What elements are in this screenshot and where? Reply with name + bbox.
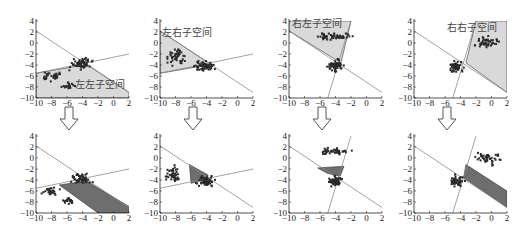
data-point xyxy=(174,173,176,175)
data-point xyxy=(487,35,489,37)
data-point xyxy=(61,86,63,88)
data-point xyxy=(205,66,207,68)
data-point xyxy=(210,67,212,69)
data-point xyxy=(203,177,205,179)
data-point xyxy=(80,69,82,71)
data-point xyxy=(166,56,168,58)
data-point xyxy=(79,59,81,61)
data-point xyxy=(166,176,168,178)
x-tick-label: −4 xyxy=(456,213,466,223)
y-tick-label: 2 xyxy=(30,142,35,152)
data-point xyxy=(205,178,207,180)
y-tick-label: 2 xyxy=(154,142,159,152)
y-tick-label: 0 xyxy=(30,38,35,48)
data-point xyxy=(317,36,319,38)
data-point xyxy=(172,172,174,174)
data-point xyxy=(174,55,176,57)
data-point xyxy=(68,69,70,71)
data-point xyxy=(71,202,73,204)
data-point xyxy=(84,63,86,65)
data-point xyxy=(478,40,480,42)
down-arrow-icon xyxy=(60,107,78,130)
y-tick-label: −6 xyxy=(402,71,412,81)
data-point xyxy=(464,180,466,182)
data-point xyxy=(453,71,455,73)
data-point xyxy=(177,52,179,54)
panel-top-4: 右右子空间420−2−4−6−8−10−10−8−6−4−202 xyxy=(398,16,509,130)
x-tick-label: 2 xyxy=(505,98,510,108)
data-point xyxy=(210,177,212,179)
data-point xyxy=(184,60,186,62)
data-point xyxy=(345,151,347,153)
y-tick-label: −8 xyxy=(277,82,287,92)
data-point xyxy=(201,175,203,177)
x-tick-label: −4 xyxy=(456,98,466,108)
y-tick-label: 2 xyxy=(30,27,35,37)
y-tick-label: 4 xyxy=(30,131,35,141)
data-point xyxy=(44,76,46,78)
x-tick-label: −10 xyxy=(29,213,44,223)
data-point xyxy=(86,173,88,175)
y-tick-label: 0 xyxy=(154,153,159,163)
subspace-label: 右右子空间 xyxy=(447,21,497,33)
data-point xyxy=(85,176,87,178)
data-point xyxy=(459,182,461,184)
data-point xyxy=(334,63,336,65)
subspace-label: 右左子空间 xyxy=(292,17,342,29)
data-point xyxy=(479,43,481,45)
y-tick-label: −6 xyxy=(148,186,158,196)
data-point xyxy=(328,33,330,35)
data-point xyxy=(474,156,476,158)
data-point xyxy=(176,56,178,58)
data-point xyxy=(82,179,84,181)
data-point xyxy=(47,189,49,191)
y-tick-label: 0 xyxy=(408,38,413,48)
data-point xyxy=(321,33,323,35)
data-point xyxy=(81,66,83,68)
data-point xyxy=(57,74,59,76)
x-tick-label: 2 xyxy=(380,98,385,108)
data-point xyxy=(499,159,501,161)
panel-top-1: 左左子空间420−2−4−6−8−10−10−8−6−4−202 xyxy=(20,16,131,130)
y-tick-label: −6 xyxy=(24,71,34,81)
data-point xyxy=(177,173,179,175)
data-point xyxy=(172,175,174,177)
data-point xyxy=(52,189,54,191)
data-point xyxy=(214,179,216,181)
data-point xyxy=(322,151,324,153)
data-point xyxy=(335,178,337,180)
y-tick-label: −6 xyxy=(402,186,412,196)
data-point xyxy=(451,177,453,179)
y-tick-label: 0 xyxy=(30,153,35,163)
data-point xyxy=(330,65,332,67)
y-tick-label: −2 xyxy=(402,164,412,174)
data-point xyxy=(455,71,457,73)
data-point xyxy=(78,179,80,181)
data-point xyxy=(324,150,326,152)
data-point xyxy=(206,176,208,178)
data-point xyxy=(453,185,455,187)
data-point xyxy=(451,71,453,73)
data-point xyxy=(81,61,83,63)
subspace-label: 左左子空间 xyxy=(75,78,125,90)
data-point xyxy=(463,67,465,69)
data-point xyxy=(168,170,170,172)
dark-region xyxy=(59,181,129,213)
data-point xyxy=(180,62,182,64)
data-point xyxy=(485,40,487,42)
data-point xyxy=(492,161,494,163)
data-point xyxy=(193,65,195,67)
y-tick-label: −8 xyxy=(24,82,34,92)
panel-bottom-3: 420−2−4−6−8−10−10−8−6−4−202 xyxy=(273,131,384,223)
data-point xyxy=(455,66,457,68)
y-tick-label: −4 xyxy=(24,60,34,70)
data-point xyxy=(330,62,332,64)
x-tick-label: −10 xyxy=(407,98,422,108)
data-point xyxy=(336,62,338,64)
data-point xyxy=(458,178,460,180)
x-tick-label: 2 xyxy=(127,98,132,108)
data-point xyxy=(174,167,176,169)
data-point xyxy=(352,35,354,37)
data-point xyxy=(474,44,476,46)
data-point xyxy=(209,62,211,64)
